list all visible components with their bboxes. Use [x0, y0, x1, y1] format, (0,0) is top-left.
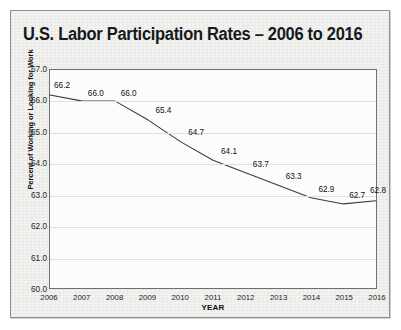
data-point-label: 62.8 — [370, 186, 386, 195]
chart-card: U.S. Labor Participation Rates – 2006 to… — [10, 10, 390, 318]
data-point-label: 65.4 — [155, 106, 171, 115]
gridline — [50, 101, 376, 102]
y-axis-ticks: 67.066.065.064.063.062.061.060.0 — [17, 69, 47, 289]
data-point-label: 66.0 — [88, 89, 104, 98]
y-tick-label: 62.0 — [21, 222, 47, 231]
x-tick-label: 2009 — [130, 293, 164, 302]
y-tick-label: 66.0 — [21, 96, 47, 105]
gridline — [50, 227, 376, 228]
data-point-label: 62.7 — [349, 191, 365, 200]
line-series — [50, 70, 376, 288]
y-tick-label: 67.0 — [21, 65, 47, 74]
data-point-label: 64.7 — [188, 128, 204, 137]
x-tick-label: 2006 — [32, 293, 66, 302]
data-point-label: 66.0 — [121, 89, 137, 98]
x-tick-label: 2010 — [163, 293, 197, 302]
gridline — [50, 164, 376, 165]
x-tick-label: 2012 — [229, 293, 263, 302]
page-title: U.S. Labor Participation Rates – 2006 to… — [23, 24, 358, 45]
data-point-label: 63.7 — [253, 159, 269, 168]
data-point-label: 63.3 — [286, 172, 302, 181]
x-tick-label: 2008 — [98, 293, 132, 302]
x-tick-label: 2015 — [327, 293, 361, 302]
x-tick-label: 2014 — [294, 293, 328, 302]
data-point-label: 66.2 — [54, 81, 70, 90]
data-point-label: 62.9 — [318, 184, 334, 193]
y-tick-label: 61.0 — [21, 253, 47, 262]
x-tick-label: 2013 — [262, 293, 296, 302]
gridline — [50, 133, 376, 134]
data-point-label: 64.1 — [221, 147, 237, 156]
x-tick-label: 2016 — [360, 293, 394, 302]
gridline — [50, 259, 376, 260]
plot-area: 66.266.066.065.464.764.163.763.362.962.7… — [49, 69, 377, 289]
gridline — [50, 196, 376, 197]
x-axis-title: YEAR — [49, 303, 377, 312]
y-tick-label: 63.0 — [21, 190, 47, 199]
page-background: U.S. Labor Participation Rates – 2006 to… — [0, 0, 401, 330]
y-tick-label: 64.0 — [21, 159, 47, 168]
x-tick-label: 2007 — [65, 293, 99, 302]
y-tick-label: 65.0 — [21, 127, 47, 136]
x-tick-label: 2011 — [196, 293, 230, 302]
